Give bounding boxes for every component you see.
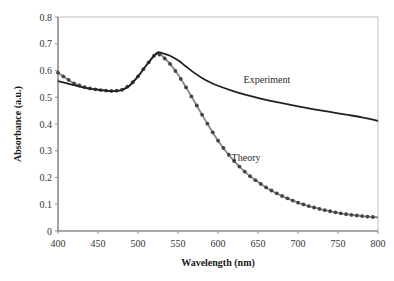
series-label-theory: Theory — [232, 152, 261, 163]
theory-marker — [344, 212, 348, 216]
theory-marker — [339, 211, 343, 215]
theory-marker — [67, 78, 71, 82]
theory-marker — [56, 71, 60, 75]
x-tick-label: 600 — [211, 238, 226, 249]
theory-marker — [291, 199, 295, 203]
theory-marker — [328, 209, 332, 213]
theory-marker — [366, 215, 370, 219]
series-label-experiment: Experiment — [244, 74, 291, 85]
plot-background — [58, 17, 378, 231]
theory-marker — [355, 214, 359, 218]
theory-marker — [307, 204, 311, 208]
theory-marker — [227, 153, 231, 157]
x-tick-label: 700 — [291, 238, 306, 249]
theory-marker — [264, 186, 268, 190]
x-tick-label: 450 — [91, 238, 106, 249]
theory-marker — [312, 206, 316, 210]
y-tick-label: 0.2 — [40, 172, 53, 183]
theory-marker — [248, 174, 252, 178]
theory-marker — [206, 122, 210, 126]
theory-marker — [243, 170, 247, 174]
theory-marker — [195, 104, 199, 108]
theory-marker — [318, 207, 322, 211]
theory-marker — [200, 113, 204, 117]
theory-marker — [190, 94, 194, 98]
y-axis-title: Absorbance (a.u.) — [12, 86, 24, 162]
theory-marker — [238, 165, 242, 169]
theory-marker — [371, 215, 375, 219]
y-tick-label: 0.8 — [40, 12, 53, 23]
y-tick-label: 0.5 — [40, 92, 53, 103]
x-tick-label: 800 — [371, 238, 386, 249]
theory-marker — [173, 69, 177, 73]
theory-marker — [286, 196, 290, 200]
theory-marker — [216, 139, 220, 143]
theory-marker — [296, 201, 300, 205]
y-tick-label: 0.3 — [40, 145, 53, 156]
y-tick-label: 0.6 — [40, 65, 53, 76]
x-tick-label: 400 — [51, 238, 66, 249]
y-axis: 00.10.20.30.40.50.60.70.8 — [40, 12, 59, 237]
theory-marker — [163, 57, 167, 61]
theory-marker — [222, 146, 226, 150]
theory-marker — [302, 203, 306, 207]
x-tick-label: 650 — [251, 238, 266, 249]
absorbance-chart: 400450500550600650700750800 00.10.20.30.… — [0, 0, 394, 281]
theory-marker — [334, 210, 338, 214]
plot-area — [58, 17, 378, 231]
theory-marker — [254, 178, 258, 182]
y-tick-label: 0 — [47, 226, 52, 237]
theory-marker — [270, 189, 274, 193]
theory-marker — [360, 214, 364, 218]
y-tick-label: 0.1 — [40, 199, 53, 210]
x-axis-title: Wavelength (nm) — [181, 257, 255, 269]
x-tick-label: 750 — [331, 238, 346, 249]
x-tick-label: 550 — [171, 238, 186, 249]
theory-marker — [179, 77, 183, 81]
x-axis: 400450500550600650700750800 — [51, 231, 386, 249]
theory-marker — [61, 74, 65, 78]
theory-marker — [275, 191, 279, 195]
theory-marker — [323, 208, 327, 212]
x-tick-label: 500 — [131, 238, 146, 249]
theory-marker — [280, 194, 284, 198]
theory-marker — [184, 86, 188, 90]
theory-marker — [259, 182, 263, 186]
y-tick-label: 0.7 — [40, 38, 53, 49]
theory-marker — [211, 130, 215, 134]
theory-marker — [168, 62, 172, 66]
y-tick-label: 0.4 — [40, 119, 53, 130]
theory-marker — [350, 213, 354, 217]
